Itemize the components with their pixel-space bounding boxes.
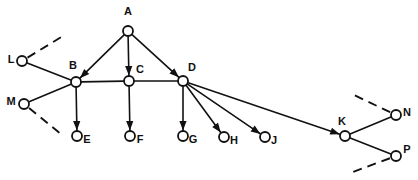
node-label-B: B xyxy=(69,59,77,71)
graph-diagram: ALBCDMEFGHJKNP xyxy=(0,0,418,180)
node-A[interactable] xyxy=(123,26,133,36)
arrowhead-C-F xyxy=(126,121,133,131)
dashed-edge-N-dashed xyxy=(354,95,390,112)
node-K[interactable] xyxy=(340,131,350,141)
edge-L-B xyxy=(27,63,71,80)
edge-D-K xyxy=(188,83,340,134)
node-label-layer: ALBCDMEFGHJKNP xyxy=(6,5,411,155)
arrowhead-D-H xyxy=(212,123,221,133)
node-M[interactable] xyxy=(19,99,29,109)
edge-B-C xyxy=(81,81,123,82)
node-G[interactable] xyxy=(178,131,188,141)
node-label-K: K xyxy=(338,115,346,127)
dashed-edge-M-dashed xyxy=(29,108,61,134)
node-label-M: M xyxy=(6,95,15,107)
arrowhead-A-C xyxy=(125,66,132,76)
edge-K-N xyxy=(350,117,391,134)
node-label-E: E xyxy=(83,133,90,145)
arrowhead-D-K xyxy=(330,128,340,135)
node-F[interactable] xyxy=(125,131,135,141)
node-label-G: G xyxy=(189,133,198,145)
graph-canvas: ALBCDMEFGHJKNP xyxy=(0,0,418,180)
node-N[interactable] xyxy=(391,110,401,120)
dashed-edge-L-dashed xyxy=(28,36,63,58)
node-label-N: N xyxy=(403,106,411,118)
edge-D-J xyxy=(188,84,261,134)
node-L[interactable] xyxy=(17,56,27,66)
node-label-P: P xyxy=(403,143,410,155)
node-layer xyxy=(17,26,401,161)
edge-M-B xyxy=(29,84,71,102)
node-D[interactable] xyxy=(178,76,188,86)
arrowhead-D-J xyxy=(251,126,261,134)
node-J[interactable] xyxy=(260,132,270,142)
arrowhead-layer xyxy=(73,66,340,135)
arrowhead-B-E xyxy=(73,121,80,131)
node-H[interactable] xyxy=(219,132,229,142)
node-C[interactable] xyxy=(124,76,134,86)
node-B[interactable] xyxy=(71,77,81,87)
dashed-edge-P-dashed xyxy=(350,158,390,173)
dashed-edge-layer xyxy=(28,36,391,173)
node-label-L: L xyxy=(8,53,15,65)
node-E[interactable] xyxy=(72,131,82,141)
node-label-D: D xyxy=(188,61,196,73)
edge-K-P xyxy=(350,138,391,154)
node-label-J: J xyxy=(271,134,277,146)
node-label-F: F xyxy=(137,133,144,145)
node-label-C: C xyxy=(136,63,144,75)
node-P[interactable] xyxy=(391,151,401,161)
node-label-H: H xyxy=(230,134,238,146)
node-label-A: A xyxy=(124,5,132,17)
arrowhead-D-G xyxy=(179,121,186,131)
